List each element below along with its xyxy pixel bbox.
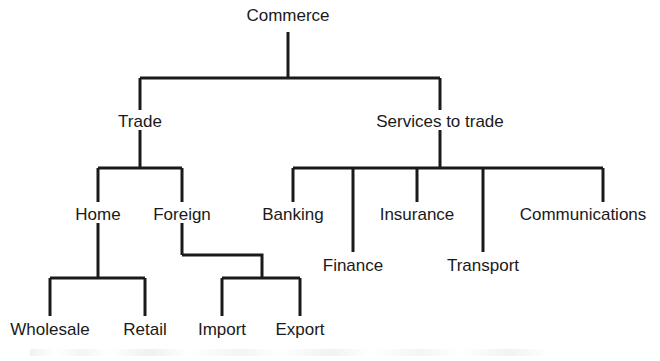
node-home: Home xyxy=(75,205,120,224)
node-foreign: Foreign xyxy=(153,205,211,224)
node-export: Export xyxy=(275,320,324,339)
node-commerce: Commerce xyxy=(246,6,329,25)
node-finance: Finance xyxy=(323,256,383,275)
node-retail: Retail xyxy=(123,320,166,339)
node-banking: Banking xyxy=(262,205,323,224)
node-trade: Trade xyxy=(118,112,162,131)
node-communications: Communications xyxy=(520,205,647,224)
edge-foreign-elbow xyxy=(182,255,262,278)
node-insurance: Insurance xyxy=(380,205,455,224)
node-transport: Transport xyxy=(447,256,519,275)
tree-connector-lines xyxy=(0,0,660,361)
node-import: Import xyxy=(198,320,246,339)
diagram-canvas: Commerce Trade Services to trade Home Fo… xyxy=(0,0,660,361)
node-services-to-trade: Services to trade xyxy=(376,112,504,131)
node-wholesale: Wholesale xyxy=(10,320,89,339)
